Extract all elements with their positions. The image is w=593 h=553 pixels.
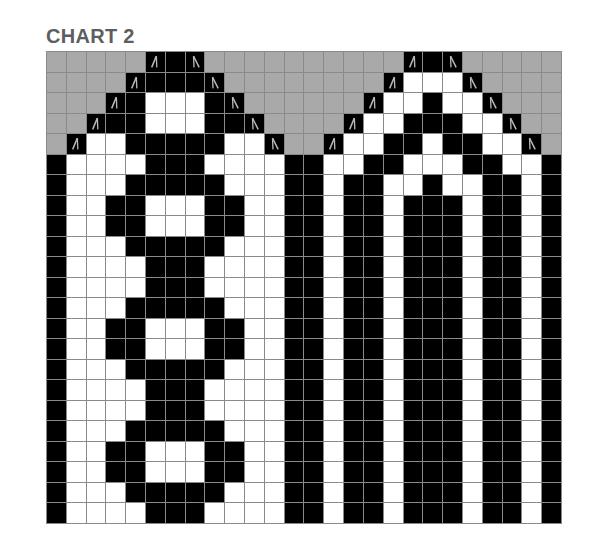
- black-cell: [364, 298, 383, 318]
- right-decrease-cell: [205, 73, 224, 93]
- white-cell: [126, 155, 145, 175]
- white-cell: [522, 278, 541, 298]
- right-decrease-icon: [483, 93, 502, 113]
- white-cell: [384, 483, 403, 503]
- black-cell: [542, 380, 561, 400]
- white-cell: [364, 114, 383, 134]
- white-cell: [106, 360, 125, 380]
- black-cell: [304, 401, 323, 421]
- black-cell: [344, 442, 363, 462]
- white-cell: [166, 462, 185, 482]
- white-cell: [166, 339, 185, 359]
- black-cell: [404, 442, 423, 462]
- background-cell: [265, 93, 284, 113]
- black-cell: [344, 278, 363, 298]
- background-cell: [483, 73, 502, 93]
- white-cell: [364, 134, 383, 154]
- white-cell: [522, 483, 541, 503]
- white-cell: [324, 380, 343, 400]
- left-decrease-cell: [146, 52, 165, 72]
- black-cell: [126, 114, 145, 134]
- white-cell: [384, 442, 403, 462]
- white-cell: [166, 442, 185, 462]
- black-cell: [423, 257, 442, 277]
- white-cell: [126, 401, 145, 421]
- white-cell: [245, 503, 264, 523]
- white-cell: [245, 134, 264, 154]
- white-cell: [522, 380, 541, 400]
- white-cell: [245, 483, 264, 503]
- white-cell: [186, 442, 205, 462]
- black-cell: [106, 319, 125, 339]
- white-cell: [483, 134, 502, 154]
- black-cell: [423, 298, 442, 318]
- black-cell: [126, 483, 145, 503]
- black-cell: [483, 462, 502, 482]
- black-cell: [404, 483, 423, 503]
- white-cell: [265, 237, 284, 257]
- white-cell: [384, 380, 403, 400]
- white-cell: [245, 155, 264, 175]
- black-cell: [47, 237, 66, 257]
- white-cell: [146, 339, 165, 359]
- background-cell: [67, 52, 86, 72]
- black-cell: [344, 175, 363, 195]
- black-cell: [443, 278, 462, 298]
- white-cell: [522, 216, 541, 236]
- white-cell: [166, 114, 185, 134]
- black-cell: [344, 401, 363, 421]
- black-cell: [364, 462, 383, 482]
- black-cell: [47, 155, 66, 175]
- white-cell: [106, 421, 125, 441]
- black-cell: [205, 175, 224, 195]
- black-cell: [47, 401, 66, 421]
- white-cell: [186, 319, 205, 339]
- white-cell: [245, 380, 264, 400]
- white-cell: [463, 483, 482, 503]
- black-cell: [443, 339, 462, 359]
- white-cell: [225, 134, 244, 154]
- background-cell: [542, 73, 561, 93]
- black-cell: [166, 483, 185, 503]
- black-cell: [285, 360, 304, 380]
- black-cell: [146, 483, 165, 503]
- background-cell: [285, 114, 304, 134]
- black-cell: [344, 462, 363, 482]
- white-cell: [522, 421, 541, 441]
- white-cell: [384, 114, 403, 134]
- white-cell: [146, 216, 165, 236]
- white-cell: [265, 196, 284, 216]
- white-cell: [265, 257, 284, 277]
- black-cell: [364, 339, 383, 359]
- white-cell: [146, 114, 165, 134]
- black-cell: [443, 401, 462, 421]
- black-cell: [146, 360, 165, 380]
- black-cell: [225, 196, 244, 216]
- black-cell: [423, 462, 442, 482]
- white-cell: [87, 278, 106, 298]
- right-decrease-cell: [186, 52, 205, 72]
- black-cell: [106, 462, 125, 482]
- black-cell: [423, 319, 442, 339]
- white-cell: [186, 339, 205, 359]
- background-cell: [47, 134, 66, 154]
- background-cell: [87, 73, 106, 93]
- black-cell: [225, 339, 244, 359]
- black-cell: [443, 257, 462, 277]
- white-cell: [166, 319, 185, 339]
- black-cell: [285, 401, 304, 421]
- black-cell: [186, 73, 205, 93]
- right-decrease-cell: [443, 52, 462, 72]
- white-cell: [265, 503, 284, 523]
- black-cell: [542, 196, 561, 216]
- black-cell: [344, 216, 363, 236]
- white-cell: [324, 421, 343, 441]
- white-cell: [106, 298, 125, 318]
- right-decrease-cell: [483, 93, 502, 113]
- white-cell: [225, 483, 244, 503]
- black-cell: [423, 237, 442, 257]
- black-cell: [542, 483, 561, 503]
- white-cell: [67, 196, 86, 216]
- black-cell: [404, 339, 423, 359]
- white-cell: [146, 196, 165, 216]
